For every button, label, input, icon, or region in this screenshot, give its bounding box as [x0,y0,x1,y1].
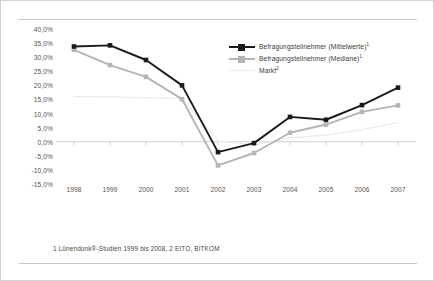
x-axis-tick-label: 2000 [138,186,153,193]
x-axis-labels: 1998199920002001200220032004200520062007 [56,186,416,200]
series-line [74,97,398,145]
chart-frame: 40,0%35,0%30,0%25,0%20,0%15,0%10,0%5,0%0… [0,0,434,281]
x-axis-tick-label: 1998 [66,186,81,193]
legend-footnote-ref: 1 [366,42,369,47]
data-point-marker [180,97,185,102]
data-point-marker [396,103,401,108]
bottom-divider-rule [19,263,417,264]
data-point-marker [396,85,401,90]
legend-label: Befragungsteilnehmer (Mittelwerte)1 [259,42,369,50]
x-axis-tick-label: 2004 [282,186,297,193]
y-axis-tick-label: 5,0% [38,124,53,131]
legend-swatch-icon [229,42,255,51]
data-point-marker [324,117,329,122]
series-markt [74,97,398,145]
y-axis-tick-label: 25,0% [34,68,53,75]
y-axis-tick-label: -10,0% [32,166,54,173]
legend-footnote-ref: 2 [276,66,279,71]
data-point-marker [360,110,365,115]
legend-line [229,70,255,71]
data-point-marker [144,58,149,63]
legend-item[interactable]: Befragungsteilnehmer (Mittelwerte)1 [229,41,424,52]
data-point-marker [252,141,257,146]
chart-legend: Befragungsteilnehmer (Mittelwerte)1Befra… [229,41,424,77]
data-point-marker [288,115,293,120]
top-divider-rule [19,19,417,20]
chart-footnote: 1 Lünendonk®-Studien 1999 bis 2008, 2 EI… [53,245,220,252]
data-point-marker [360,103,365,108]
x-axis-tick-label: 1999 [102,186,117,193]
y-axis-tick-label: 10,0% [34,110,53,117]
legend-footnote-ref: 1 [359,54,362,59]
legend-swatch-icon [229,66,255,75]
legend-item[interactable]: Markt2 [229,65,424,76]
x-axis-tick-label: 2002 [210,186,225,193]
data-point-marker [108,43,113,48]
data-point-marker [252,151,257,156]
x-axis-tick-label: 2001 [174,186,189,193]
y-axis-tick-label: -5,0% [35,152,53,159]
legend-square-marker-icon [238,44,245,51]
y-axis-tick-label: 40,0% [34,26,53,33]
legend-square-marker-icon [238,56,245,63]
data-point-marker [216,163,221,168]
data-point-marker [180,83,185,88]
legend-label: Markt2 [259,66,279,74]
y-axis-labels: 40,0%35,0%30,0%25,0%20,0%15,0%10,0%5,0%0… [15,29,53,184]
x-axis-tick-label: 2006 [354,186,369,193]
legend-swatch-icon [229,54,255,63]
data-point-marker [216,150,221,155]
y-axis-tick-label: 35,0% [34,40,53,47]
data-point-marker [288,130,293,135]
y-axis-tick-label: 0,0% [38,138,53,145]
legend-item[interactable]: Befragungsteilnehmer (Mediane)1 [229,53,424,64]
data-point-marker [108,63,113,68]
y-axis-tick-label: 15,0% [34,96,53,103]
data-point-marker [324,122,329,127]
data-point-marker [144,75,149,80]
x-axis-tick-label: 2005 [318,186,333,193]
x-axis-tick-label: 2007 [390,186,405,193]
y-axis-tick-label: 30,0% [34,54,53,61]
data-point-marker [72,44,77,49]
legend-label: Befragungsteilnehmer (Mediane)1 [259,54,362,62]
x-axis-tick-label: 2003 [246,186,261,193]
y-axis-tick-label: -15,0% [32,181,54,188]
y-axis-tick-label: 20,0% [34,82,53,89]
